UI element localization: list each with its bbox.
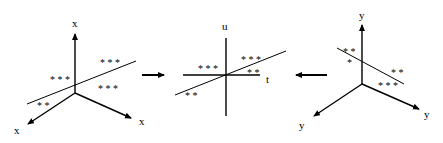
star-cluster: * * * xyxy=(100,57,120,68)
right-axis xyxy=(75,93,131,118)
axis-label-left: x xyxy=(14,124,20,136)
star-cluster: * * xyxy=(391,67,404,78)
star-cluster: * * xyxy=(247,67,260,78)
star-cluster: * * * xyxy=(378,80,398,91)
right-3d-axes-panel: y y y * * * * * * * * xyxy=(299,9,430,131)
left-axis xyxy=(28,93,75,124)
star-cluster: * * * xyxy=(241,54,261,65)
axis-label-up: y xyxy=(359,9,365,21)
left-3d-axes-panel: x x x * * * * * * * * * * * xyxy=(14,17,145,136)
axis-label-u: u xyxy=(222,20,228,32)
star-cluster: * * * xyxy=(50,74,70,85)
star-cluster: * * * xyxy=(198,63,218,74)
fit-line xyxy=(175,51,286,95)
star-cluster: * xyxy=(347,57,352,68)
axis-label-right: x xyxy=(139,115,145,127)
star-cluster: * * xyxy=(185,90,198,101)
star-cluster: * * xyxy=(37,100,50,111)
axis-label-up: x xyxy=(72,17,78,29)
middle-2d-axes-panel: u t * * * * * * * * * * xyxy=(175,20,286,116)
axis-label-left: y xyxy=(299,119,305,131)
star-cluster: * * xyxy=(343,46,356,57)
star-cluster: * * * xyxy=(98,83,118,94)
axis-label-right: y xyxy=(424,108,430,120)
left-axis xyxy=(314,84,362,116)
axis-label-t: t xyxy=(266,73,269,85)
transformation-diagram: x x x * * * * * * * * * * * u t * * * * … xyxy=(0,0,443,143)
